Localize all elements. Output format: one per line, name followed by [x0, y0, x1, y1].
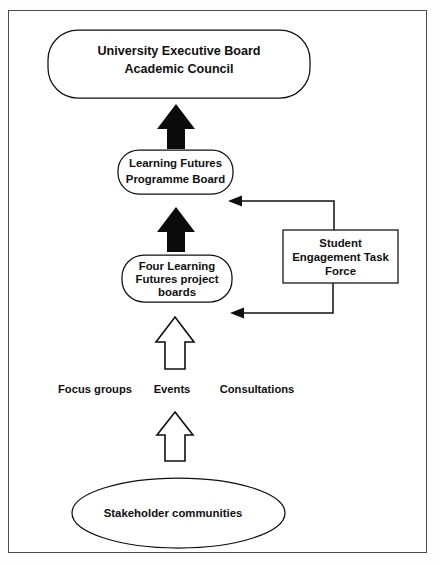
arrow-project-boards-to-programme-board [157, 207, 195, 252]
programme-board-label-line2: Programme Board [126, 173, 225, 185]
diagram-page: University Executive Board Academic Coun… [0, 0, 440, 566]
stakeholders-label: Stakeholder communities [104, 507, 243, 519]
node-programme-board[interactable]: Learning Futures Programme Board [118, 150, 233, 194]
hollow-up-arrow-upper [156, 317, 194, 369]
connector-task-force-to-programme-board [228, 196, 334, 231]
arrow-stakeholders-to-engagement [157, 412, 193, 461]
arrow-engagement-to-project-boards [156, 317, 194, 369]
task-force-label-line3: Force [325, 265, 356, 277]
node-stakeholders[interactable]: Stakeholder communities [72, 478, 285, 548]
task-force-lower-arrowhead [230, 308, 244, 319]
executive-board-label-line2: Academic Council [124, 62, 233, 76]
node-executive-board[interactable]: University Executive Board Academic Coun… [48, 30, 310, 98]
project-boards-label-line3: boards [158, 286, 196, 298]
node-task-force[interactable]: Student Engagement Task Force [283, 230, 398, 283]
programme-board-label-line1: Learning Futures [129, 157, 222, 169]
engagement-labels-row: Focus groups Events Consultations [58, 383, 294, 395]
project-boards-label-line1: Four Learning [139, 260, 216, 272]
task-force-label-line1: Student [319, 237, 362, 249]
connector-task-force-to-project-boards [230, 283, 333, 319]
solid-up-arrow-upper [157, 104, 195, 149]
task-force-upper-elbow-line [240, 201, 334, 230]
hollow-up-arrow-lower [157, 412, 193, 461]
arrow-programme-board-to-executive-board [157, 104, 195, 149]
engagement-label-focus-groups: Focus groups [58, 383, 132, 395]
engagement-label-consultations: Consultations [220, 383, 295, 395]
engagement-label-events: Events [154, 383, 191, 395]
node-project-boards[interactable]: Four Learning Futures project boards [122, 255, 232, 302]
executive-board-label-line1: University Executive Board [97, 44, 260, 58]
task-force-lower-elbow-line [242, 283, 333, 313]
project-boards-label-line2: Futures project [136, 273, 219, 285]
task-force-label-line2: Engagement Task [292, 251, 389, 263]
task-force-upper-arrowhead [228, 196, 242, 207]
solid-up-arrow-lower [157, 207, 195, 252]
governance-diagram: University Executive Board Academic Coun… [0, 0, 440, 566]
